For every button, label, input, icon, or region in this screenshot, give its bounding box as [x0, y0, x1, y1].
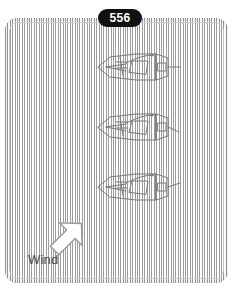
- figure-container: 556: [0, 0, 240, 296]
- page-number-badge: 556: [98, 9, 142, 27]
- wind-label: Wind: [28, 252, 92, 267]
- sailboat-top: [96, 50, 182, 84]
- sailboat-middle: [96, 110, 182, 144]
- sailboat-bottom: [96, 170, 182, 204]
